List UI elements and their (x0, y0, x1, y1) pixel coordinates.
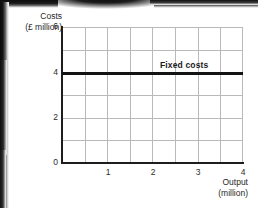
x-axis-title-line-2: (million) (176, 188, 248, 199)
x-tick-label-3: 3 (191, 167, 205, 177)
gridline-horizontal-2 (62, 118, 243, 119)
chart-canvas: Costs (£ million) 6 4 2 0 (0, 0, 258, 210)
x-axis-title-line-1: Output (176, 177, 248, 188)
y-axis-line (61, 26, 63, 164)
y-tick-label-0: 0 (53, 158, 58, 167)
fixed-costs-label: Fixed costs (160, 60, 208, 70)
x-axis-line (61, 162, 244, 164)
x-tick-label-4: 4 (236, 167, 250, 177)
x-tick-label-2: 2 (146, 167, 160, 177)
y-tick-label-6: 6 (53, 22, 58, 31)
x-axis-title: Output (million) (176, 177, 252, 198)
fixed-costs-line (62, 72, 243, 75)
gridline-horizontal-1 (62, 140, 243, 141)
plot-area (62, 27, 243, 163)
y-tick-label-2: 2 (53, 113, 58, 122)
scanned-chart-figure: Costs (£ million) 6 4 2 0 (0, 0, 258, 210)
gridline-horizontal-6 (62, 27, 243, 28)
y-axis-tick-labels: 6 4 2 0 (38, 0, 58, 210)
x-tick-label-1: 1 (101, 167, 115, 177)
gridline-horizontal-3 (62, 95, 243, 96)
gridline-horizontal-5 (62, 50, 243, 51)
y-tick-label-4: 4 (53, 68, 58, 77)
